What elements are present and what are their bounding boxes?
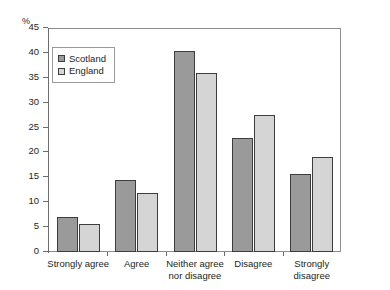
bar-scotland [232, 138, 253, 252]
y-axis-tick-mark [43, 102, 48, 103]
y-axis-tick-mark [43, 52, 48, 53]
y-axis-tick-mark [43, 127, 48, 128]
bar-england [196, 73, 217, 252]
legend-swatch [58, 68, 65, 75]
legend-item: England [58, 65, 106, 77]
bar-scotland [57, 217, 78, 252]
bar-england [254, 115, 275, 252]
x-axis-tick-mark [224, 252, 225, 256]
x-axis-tick-mark [107, 252, 108, 256]
y-axis-tick-label: 10 [0, 195, 39, 207]
y-axis-tick-mark [43, 176, 48, 177]
y-axis-tick-label: 30 [0, 96, 39, 108]
y-axis-tick-mark [43, 251, 48, 252]
y-axis-tick-label: 40 [0, 46, 39, 58]
bar-england [79, 224, 100, 252]
y-axis-tick-label: 25 [0, 121, 39, 133]
bar-england [137, 193, 158, 252]
y-axis-tick-label: 15 [0, 170, 39, 182]
x-axis-category-label: Stronglydisagree [275, 258, 349, 281]
bar-group [290, 28, 333, 252]
y-axis-tick-label: 45 [0, 21, 39, 33]
bar-scotland [290, 174, 311, 252]
x-axis-tick-mark [166, 252, 167, 256]
bar-scotland [174, 51, 195, 252]
y-axis-tick-label: 5 [0, 220, 39, 232]
y-axis-tick-mark [43, 226, 48, 227]
bar-group [232, 28, 275, 252]
chart-legend: ScotlandEngland [52, 47, 115, 83]
legend-swatch [58, 55, 65, 62]
legend-item: Scotland [58, 53, 106, 65]
bar-scotland [115, 180, 136, 252]
legend-label: Scotland [69, 53, 106, 65]
bar-group [115, 28, 158, 252]
y-axis-tick-label: 20 [0, 145, 39, 157]
legend-label: England [69, 65, 104, 77]
x-axis-label-line: nor disagree [158, 270, 232, 282]
x-axis-label-line: Strongly [275, 258, 349, 270]
bar-england [312, 157, 333, 252]
x-axis-tick-mark [283, 252, 284, 256]
y-axis-tick-label: 0 [0, 245, 39, 257]
y-axis-tick-mark [43, 201, 48, 202]
y-axis-tick-mark [43, 151, 48, 152]
bar-chart: % 051015202530354045 Strongly agreeAgree… [0, 0, 390, 290]
bar-group [174, 28, 217, 252]
y-axis-tick-mark [43, 27, 48, 28]
y-axis-tick-label: 35 [0, 71, 39, 83]
x-axis-label-line: disagree [275, 270, 349, 282]
y-axis-tick-mark [43, 77, 48, 78]
